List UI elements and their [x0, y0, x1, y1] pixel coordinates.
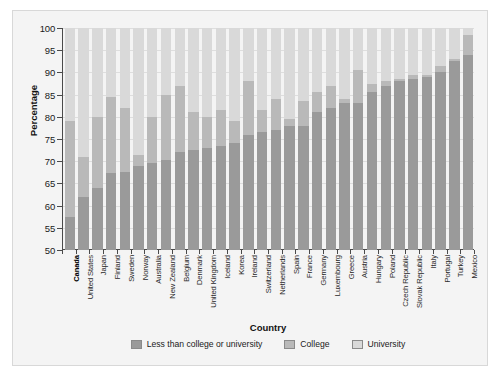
x-axis-tick-mark [241, 250, 242, 254]
bar-segment [422, 75, 432, 77]
bar-segment [78, 28, 88, 157]
bar-stack[interactable] [449, 28, 459, 249]
bar-segment [216, 146, 226, 250]
x-axis-labels: CanadaUnited StatesJapanFinlandSwedenNor… [62, 255, 474, 327]
bar-segment [298, 126, 308, 250]
bar-stack[interactable] [65, 28, 75, 249]
bar-segment [284, 126, 294, 250]
bar-segment [381, 81, 391, 85]
y-axis-tick-label: 70 [45, 156, 55, 167]
x-axis-category-label: Denmark [195, 255, 204, 285]
bar-segment [106, 97, 116, 173]
bar-segment [271, 28, 281, 99]
x-axis-tick-mark [405, 250, 406, 254]
bar-segment [381, 86, 391, 250]
x-axis-category-label: Greece [347, 255, 356, 279]
x-axis-category-label: Czech Republic [401, 255, 410, 307]
bar-stack[interactable] [367, 28, 377, 249]
bar-stack[interactable] [175, 28, 185, 249]
bar-stack[interactable] [312, 28, 322, 249]
x-axis-tick-mark [131, 250, 132, 254]
x-axis-tick-mark [337, 250, 338, 254]
bar-segment [216, 110, 226, 146]
bar-segment [161, 95, 171, 160]
legend-swatch-icon [131, 340, 142, 349]
bar-stack[interactable] [394, 28, 404, 249]
x-axis-tick-mark [474, 250, 475, 254]
x-axis-tick-mark [199, 250, 200, 254]
bar-stack[interactable] [92, 28, 102, 249]
bar-stack[interactable] [161, 28, 171, 249]
x-axis-category-label: Turkey [456, 255, 465, 277]
bar-segment [147, 28, 157, 117]
x-axis-tick-mark [295, 250, 296, 254]
bar-stack[interactable] [78, 28, 88, 249]
legend-swatch-icon [352, 340, 363, 349]
x-axis-tick-mark [117, 250, 118, 254]
bar-stack[interactable] [271, 28, 281, 249]
x-axis-tick-mark [254, 250, 255, 254]
bar-segment [202, 148, 212, 250]
bar-segment [257, 110, 267, 132]
bar-stack[interactable] [188, 28, 198, 249]
bar-stack[interactable] [257, 28, 267, 249]
bar-segment [463, 35, 473, 55]
x-axis-tick-mark [227, 250, 228, 254]
bar-stack[interactable] [381, 28, 391, 249]
x-axis-category-label: New Zealand [168, 255, 177, 299]
bar-stack[interactable] [298, 28, 308, 249]
x-axis-category-label: Slovak Republic [415, 255, 424, 308]
bar-stack[interactable] [339, 28, 349, 249]
x-axis-category-label: Canada [72, 255, 81, 282]
bar-segment [312, 112, 322, 250]
bar-stack[interactable] [284, 28, 294, 249]
bar-segment [175, 86, 185, 153]
bar-stack[interactable] [435, 28, 445, 249]
y-axis-tick-label: 65 [45, 178, 55, 189]
bar-stack[interactable] [463, 28, 473, 249]
x-axis-tick-mark [76, 250, 77, 254]
bar-segment [188, 150, 198, 250]
x-axis-tick-mark [323, 250, 324, 254]
x-axis-tick-mark [350, 250, 351, 254]
legend-item[interactable]: University [352, 339, 406, 349]
bar-segment [312, 28, 322, 92]
chart-figure: Percentage 50556065707580859095100 Canad… [0, 0, 500, 380]
bar-stack[interactable] [106, 28, 116, 249]
bar-stack[interactable] [202, 28, 212, 249]
bar-segment [147, 163, 157, 250]
bar-segment [367, 28, 377, 84]
bar-segment [435, 72, 445, 250]
legend-label: College [300, 339, 329, 349]
legend-label: Less than college or university [147, 339, 263, 349]
bar-segment [312, 92, 322, 112]
bar-stack[interactable] [408, 28, 418, 249]
bar-segment [422, 28, 432, 75]
bar-stack[interactable] [422, 28, 432, 249]
bar-stack[interactable] [243, 28, 253, 249]
y-axis-tick-label: 90 [45, 67, 55, 78]
bar-segment [381, 28, 391, 81]
bar-stack[interactable] [133, 28, 143, 249]
bar-stack[interactable] [120, 28, 130, 249]
x-axis-category-label: Mexico [470, 255, 479, 278]
legend-item[interactable]: College [284, 339, 329, 349]
x-axis-category-label: Japan [99, 255, 108, 275]
x-axis-category-label: Netherlands [278, 255, 287, 295]
x-axis-tick-mark [172, 250, 173, 254]
x-axis-category-label: United States [86, 255, 95, 299]
bar-segment [202, 28, 212, 117]
bar-segment [408, 75, 418, 79]
bar-stack[interactable] [147, 28, 157, 249]
legend-item[interactable]: Less than college or university [131, 339, 263, 349]
bar-stack[interactable] [229, 28, 239, 249]
x-axis-tick-mark [392, 250, 393, 254]
plot-area [62, 28, 474, 250]
x-axis-category-label: Germany [319, 255, 328, 286]
y-axis-tick-label: 60 [45, 200, 55, 211]
bar-segment [188, 28, 198, 112]
bar-stack[interactable] [326, 28, 336, 249]
bar-stack[interactable] [216, 28, 226, 249]
x-axis-category-label: Norway [141, 255, 150, 280]
bar-stack[interactable] [353, 28, 363, 249]
